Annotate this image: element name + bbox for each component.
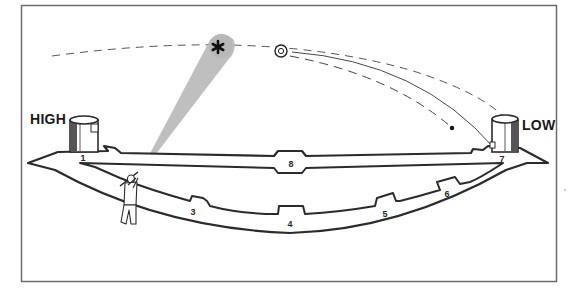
station-7-label: 7 xyxy=(499,154,504,164)
target-dot xyxy=(450,126,454,130)
shot-string-path xyxy=(292,52,494,148)
station-4-label: 4 xyxy=(287,219,292,229)
speck xyxy=(564,189,566,191)
diagram-frame xyxy=(22,6,557,282)
station-5-label: 5 xyxy=(382,209,387,219)
clay-target-icon xyxy=(275,45,287,57)
low-house-label: LOW xyxy=(522,117,556,133)
station-6-label: 6 xyxy=(444,189,449,199)
station-1-label: 1 xyxy=(80,153,85,163)
low-house xyxy=(490,115,518,152)
station-8-label: 8 xyxy=(288,159,293,169)
high-house xyxy=(70,116,98,152)
high-house-label: HIGH xyxy=(30,111,66,127)
skeet-diagram: HIGH LOW 1 3 4 5 6 7 8 xyxy=(0,0,577,295)
station-3-label: 3 xyxy=(190,207,195,217)
diagram-canvas xyxy=(0,0,577,295)
